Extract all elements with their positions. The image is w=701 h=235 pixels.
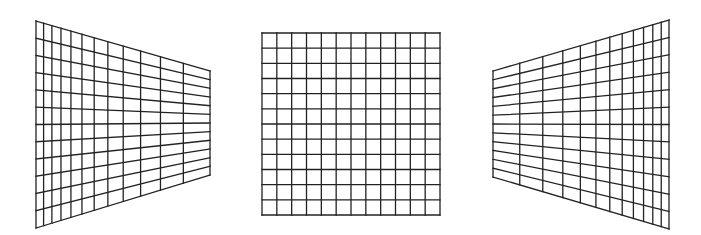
left-perspective-grid: [36, 21, 210, 228]
right-perspective-grid: [493, 20, 669, 229]
center-flat-grid: [262, 33, 440, 215]
perspective-grids-figure: [0, 0, 701, 235]
grid-horizontal-line: [493, 124, 669, 125]
